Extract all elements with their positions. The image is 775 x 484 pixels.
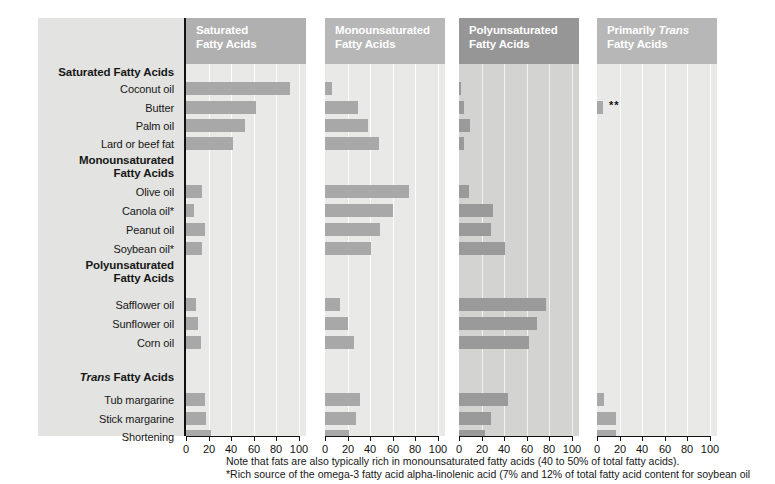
bar-palm-oil xyxy=(325,119,368,132)
x-axis-tick-label: 100 xyxy=(560,443,584,455)
x-axis-line xyxy=(597,436,711,437)
panel-header: SaturatedFatty Acids xyxy=(186,18,306,64)
row-label-butter: Butter xyxy=(145,102,174,114)
x-axis-tick xyxy=(438,436,439,441)
panel-header-line2: Fatty Acids xyxy=(469,38,529,50)
bar-lard-or-beef-fat xyxy=(325,137,379,150)
plot-area xyxy=(325,64,445,436)
row-label-sunflower-oil: Sunflower oil xyxy=(112,318,174,330)
bar-stick-margarine xyxy=(597,412,616,425)
x-axis-tick-label: 60 xyxy=(381,443,405,455)
bar-safflower-oil xyxy=(186,298,196,311)
x-axis-tick-label: 0 xyxy=(585,443,609,455)
bar-butter xyxy=(325,101,358,114)
x-axis-tick xyxy=(299,436,300,441)
x-axis-tick-label: 40 xyxy=(358,443,382,455)
bar-canola-oil xyxy=(459,204,493,217)
x-axis-tick-label: 60 xyxy=(653,443,677,455)
bar-stick-margarine xyxy=(325,412,356,425)
panel-header: Primarily TransFatty Acids xyxy=(597,18,717,64)
gridline xyxy=(393,64,394,436)
row-label-shortening: Shortening xyxy=(122,431,174,443)
x-axis-tick xyxy=(231,436,232,441)
trans-italic-word: Trans xyxy=(80,371,111,383)
plot-area xyxy=(459,64,579,436)
row-label-safflower-oil: Safflower oil xyxy=(116,299,174,311)
panel-header-italic-word: Trans xyxy=(658,24,689,36)
panel-header-line2: Fatty Acids xyxy=(607,38,667,50)
x-axis-tick-label: 60 xyxy=(515,443,539,455)
x-axis-line xyxy=(325,436,439,437)
bar-butter xyxy=(459,101,464,114)
row-label-corn-oil: Corn oil xyxy=(137,337,174,349)
gridline xyxy=(254,64,255,436)
x-axis-tick-label: 0 xyxy=(447,443,471,455)
group-heading-line1: Monounsaturated xyxy=(79,154,174,166)
panel-header: PolyunsaturatedFatty Acids xyxy=(459,18,579,64)
panel-header-line1: Saturated xyxy=(196,24,248,36)
x-axis-tick-label: 60 xyxy=(242,443,266,455)
bar-coconut-oil xyxy=(459,82,461,95)
group-heading-line1: Polyunsaturated xyxy=(85,259,174,271)
bar-sunflower-oil xyxy=(186,317,198,330)
bar-coconut-oil xyxy=(186,82,290,95)
x-axis-tick-label: 80 xyxy=(675,443,699,455)
bar-soybean-oil xyxy=(186,242,202,255)
panel-saturated-fatty-acids: SaturatedFatty Acids xyxy=(186,18,306,436)
x-axis-tick xyxy=(527,436,528,441)
bar-peanut-oil xyxy=(325,223,380,236)
row-label-canola-oil: Canola oil* xyxy=(122,205,174,217)
group-heading-line2: Fatty Acids xyxy=(114,167,174,179)
panel-polyunsaturated-fatty-acids: PolyunsaturatedFatty Acids xyxy=(459,18,579,436)
row-label-palm-oil: Palm oil xyxy=(136,120,174,132)
x-axis-tick-label: 100 xyxy=(287,443,311,455)
x-axis-tick-label: 20 xyxy=(197,443,221,455)
x-axis-line xyxy=(459,436,573,437)
bar-stick-margarine xyxy=(459,412,491,425)
x-axis-tick xyxy=(415,436,416,441)
panel-header: MonounsaturatedFatty Acids xyxy=(325,18,445,64)
group-heading-line2: Fatty Acids xyxy=(114,272,174,284)
gridline xyxy=(642,64,643,436)
x-axis-tick xyxy=(620,436,621,441)
gridline xyxy=(549,64,550,436)
bar-soybean-oil xyxy=(459,242,505,255)
x-axis-tick xyxy=(186,436,187,441)
bar-butter xyxy=(597,101,603,114)
group-heading: PolyunsaturatedFatty Acids xyxy=(85,259,174,285)
x-axis-tick xyxy=(348,436,349,441)
row-label-lard-or-beef-fat: Lard or beef fat xyxy=(101,138,174,150)
x-axis-tick-label: 40 xyxy=(630,443,654,455)
x-axis-tick-label: 20 xyxy=(470,443,494,455)
bar-corn-oil xyxy=(325,336,354,349)
bar-safflower-oil xyxy=(459,298,546,311)
x-axis-tick-label: 0 xyxy=(174,443,198,455)
bar-coconut-oil xyxy=(325,82,332,95)
x-axis-tick-label: 0 xyxy=(313,443,337,455)
panel-header-line1: Primarily xyxy=(607,24,658,36)
gridline xyxy=(572,64,573,436)
x-axis-tick xyxy=(370,436,371,441)
bar-olive-oil xyxy=(325,185,409,198)
x-axis-tick-label: 80 xyxy=(403,443,427,455)
bar-tub-margarine xyxy=(597,393,604,406)
bar-lard-or-beef-fat xyxy=(459,137,464,150)
row-label-coconut-oil: Coconut oil xyxy=(120,83,174,95)
bar-canola-oil xyxy=(186,204,194,217)
bar-stick-margarine xyxy=(186,412,206,425)
bar-tub-margarine xyxy=(459,393,508,406)
x-axis-tick xyxy=(504,436,505,441)
x-axis-tick-label: 40 xyxy=(219,443,243,455)
x-axis-tick-label: 20 xyxy=(608,443,632,455)
x-axis-tick xyxy=(710,436,711,441)
gridline xyxy=(415,64,416,436)
x-axis-tick xyxy=(549,436,550,441)
gridline xyxy=(276,64,277,436)
panel-primarily-trans-fatty-acids: Primarily TransFatty Acids xyxy=(597,18,717,436)
bar-palm-oil xyxy=(186,119,245,132)
bar-olive-oil xyxy=(186,185,202,198)
x-axis-tick xyxy=(209,436,210,441)
x-axis-tick xyxy=(572,436,573,441)
x-axis-tick-label: 80 xyxy=(264,443,288,455)
group-heading: Saturated Fatty Acids xyxy=(58,66,174,78)
